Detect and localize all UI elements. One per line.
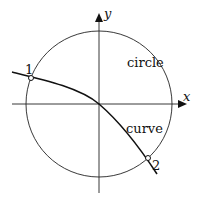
- point-2-marker: [146, 156, 151, 161]
- point-2-label: 2: [152, 158, 160, 173]
- x-axis-label: x: [183, 89, 191, 104]
- circle-label: circle: [127, 55, 164, 70]
- y-axis-label: y: [103, 6, 112, 21]
- y-axis-arrow-icon: [95, 13, 103, 22]
- point-1-label: 1: [25, 62, 33, 77]
- diagram-canvas: 1 2 circle curve x y: [0, 0, 198, 206]
- diagram: 1 2 circle curve x y: [0, 0, 198, 206]
- curve-label: curve: [126, 121, 163, 136]
